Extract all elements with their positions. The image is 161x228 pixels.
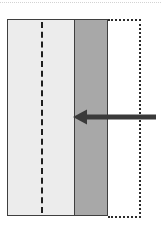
left-arrow-icon	[73, 108, 156, 126]
top-guide-line-icon	[0, 2, 161, 3]
diagram-canvas	[0, 0, 161, 228]
left-pointing-arrow	[73, 108, 156, 126]
dashed-center-line-icon	[41, 22, 43, 213]
